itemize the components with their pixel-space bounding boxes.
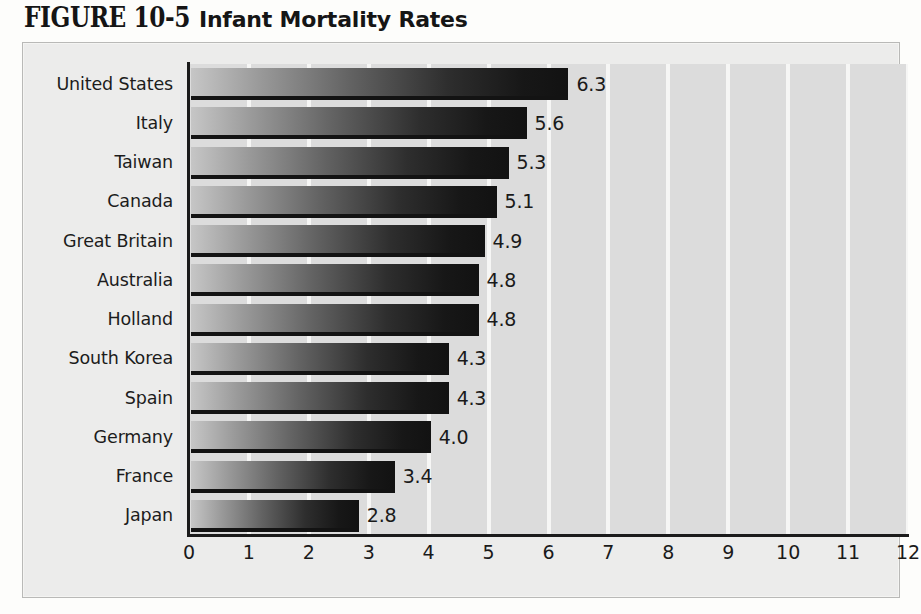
bar-value-label: 4.0 — [439, 425, 469, 447]
bar-value-label: 5.6 — [535, 111, 565, 133]
bar-value-label: 4.8 — [487, 268, 517, 290]
bar — [191, 147, 509, 175]
x-tick-label: 10 — [776, 541, 800, 563]
bar-value-label: 6.3 — [576, 72, 606, 94]
x-tick-label: 4 — [423, 541, 435, 563]
bar — [191, 186, 497, 214]
bar-shadow — [191, 175, 509, 179]
x-tick-label: 8 — [662, 541, 674, 563]
x-tick-label: 1 — [243, 541, 255, 563]
bar-shadow — [191, 332, 479, 336]
bar-shadow — [191, 489, 395, 493]
category-label: Australia — [97, 269, 173, 289]
bar — [191, 107, 527, 135]
category-label: Japan — [125, 505, 173, 525]
x-tick-label: 6 — [542, 541, 554, 563]
category-label: Germany — [94, 426, 173, 446]
bar-shadow — [191, 410, 449, 414]
bar-row: Holland4.8 — [23, 300, 899, 339]
bar-value-label: 4.3 — [457, 386, 487, 408]
category-label: Holland — [108, 309, 173, 329]
x-tick-label: 9 — [722, 541, 734, 563]
x-tick-label: 5 — [483, 541, 495, 563]
bar-row: United States6.3 — [23, 64, 899, 103]
bar — [191, 343, 449, 371]
bar-shadow — [191, 135, 527, 139]
bar-row: Italy5.6 — [23, 103, 899, 142]
bar-value-label: 4.8 — [487, 308, 517, 330]
bar-row: Germany4.0 — [23, 417, 899, 456]
x-axis-tick-labels: 0123456789101112 — [189, 541, 908, 581]
category-label: South Korea — [69, 348, 173, 368]
bar-value-label: 5.1 — [505, 190, 535, 212]
bar — [191, 421, 431, 449]
x-tick-label: 11 — [836, 541, 860, 563]
bar-row: Taiwan5.3 — [23, 143, 899, 182]
bar-shadow — [191, 528, 359, 532]
bar-shadow — [191, 214, 497, 218]
x-tick-label: 3 — [363, 541, 375, 563]
bar-value-label: 3.4 — [403, 465, 433, 487]
x-tick-label: 2 — [303, 541, 315, 563]
bar — [191, 461, 395, 489]
bar-value-label: 5.3 — [517, 151, 547, 173]
bar-shadow — [191, 292, 479, 296]
bar-shadow — [191, 371, 449, 375]
bar-value-label: 4.3 — [457, 347, 487, 369]
bar — [191, 68, 568, 96]
bar-row: Canada5.1 — [23, 182, 899, 221]
bar — [191, 382, 449, 410]
category-label: United States — [56, 73, 173, 93]
gridline-12 — [906, 64, 908, 535]
figure-number-label: FIGURE 10-5 — [24, 2, 190, 33]
bar-row: Japan2.8 — [23, 496, 899, 535]
bar-row: Spain4.3 — [23, 378, 899, 417]
category-label: Canada — [107, 191, 173, 211]
bar — [191, 264, 479, 292]
bar — [191, 225, 485, 253]
bar-row: France3.4 — [23, 457, 899, 496]
bar-row: South Korea4.3 — [23, 339, 899, 378]
category-label: France — [116, 466, 173, 486]
bar-row: Great Britain4.9 — [23, 221, 899, 260]
bar-value-label: 4.9 — [493, 229, 523, 251]
bar — [191, 500, 359, 528]
chart-panel: United States6.3Italy5.6Taiwan5.3Canada5… — [22, 42, 900, 598]
figure-title-text: Infant Mortality Rates — [199, 7, 468, 32]
x-tick-label: 7 — [602, 541, 614, 563]
bar-row: Australia4.8 — [23, 260, 899, 299]
bar-shadow — [191, 449, 431, 453]
category-label: Great Britain — [63, 230, 173, 250]
x-tick-label: 0 — [183, 541, 195, 563]
category-label: Spain — [125, 387, 173, 407]
bar — [191, 304, 479, 332]
page-title: FIGURE 10-5 Infant Mortality Rates — [24, 2, 468, 40]
category-label: Italy — [136, 112, 173, 132]
bar-shadow — [191, 96, 568, 100]
x-tick-label: 12 — [896, 541, 920, 563]
bar-shadow — [191, 253, 485, 257]
category-label: Taiwan — [114, 152, 173, 172]
bar-value-label: 2.8 — [367, 504, 397, 526]
